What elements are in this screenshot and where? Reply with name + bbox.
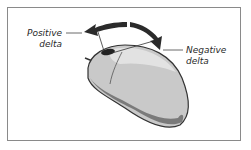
mouse-illustration bbox=[0, 0, 251, 150]
positive-label-line1: Positive bbox=[26, 28, 62, 39]
positive-pointer-line bbox=[98, 32, 104, 51]
negative-delta-label: Negative delta bbox=[186, 45, 226, 67]
positive-delta-label: Positive delta bbox=[26, 28, 62, 50]
negative-label-line2: delta bbox=[186, 56, 226, 67]
positive-arrow-icon bbox=[84, 22, 127, 36]
positive-label-line2: delta bbox=[26, 39, 62, 50]
negative-label-line1: Negative bbox=[186, 45, 226, 56]
